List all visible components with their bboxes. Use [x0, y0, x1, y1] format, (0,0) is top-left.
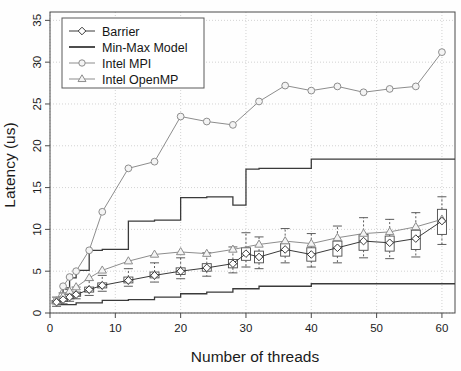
data-point-circle — [360, 89, 367, 96]
x-tick-label: 10 — [109, 322, 122, 334]
data-point-circle — [334, 83, 341, 90]
data-point-circle — [86, 247, 93, 254]
x-tick-label: 40 — [305, 322, 318, 334]
data-point-circle — [151, 158, 158, 165]
x-tick-label: 30 — [240, 322, 253, 334]
data-point-circle — [60, 283, 67, 290]
x-tick-label: 50 — [370, 322, 383, 334]
data-point-circle — [177, 113, 184, 120]
data-point-circle — [256, 98, 263, 105]
data-point-circle — [99, 208, 106, 215]
data-point-circle — [439, 49, 446, 56]
data-point-circle — [412, 83, 419, 90]
x-axis-title: Number of threads — [191, 348, 320, 365]
x-tick-label: 0 — [47, 322, 53, 334]
y-tick-label: 10 — [31, 223, 43, 236]
chart-figure: 0102030405060 05101520253035 Number of t… — [0, 0, 461, 371]
y-tick-label: 30 — [31, 56, 43, 69]
data-point-circle — [308, 87, 315, 94]
legend-label-intel-openmp: Intel OpenMP — [102, 73, 178, 87]
legend-label-intel-mpi: Intel MPI — [102, 57, 151, 71]
y-tick-label: 5 — [31, 268, 43, 274]
data-point-circle — [386, 86, 393, 93]
y-tick-label: 0 — [31, 310, 43, 316]
legend-label-barrier: Barrier — [102, 25, 140, 39]
chart-legend: BarrierMin-Max ModelIntel MPIIntel OpenM… — [62, 18, 204, 88]
y-tick-label: 35 — [31, 14, 43, 27]
latency-vs-threads-chart: 0102030405060 05101520253035 Number of t… — [0, 0, 461, 371]
data-point-circle — [79, 60, 85, 66]
data-point-circle — [203, 118, 210, 125]
data-point-circle — [73, 268, 80, 275]
data-point-circle — [282, 82, 289, 89]
y-tick-label: 20 — [31, 139, 43, 152]
data-point-circle — [125, 165, 132, 172]
y-tick-label: 25 — [31, 98, 43, 111]
data-point-circle — [230, 121, 237, 128]
legend-label-min-max-model: Min-Max Model — [102, 41, 187, 55]
data-point-circle — [66, 274, 73, 281]
x-tick-label: 20 — [174, 322, 187, 334]
y-tick-label: 15 — [31, 181, 43, 194]
y-axis-title: Latency (us) — [1, 122, 18, 207]
x-tick-label: 60 — [436, 322, 449, 334]
